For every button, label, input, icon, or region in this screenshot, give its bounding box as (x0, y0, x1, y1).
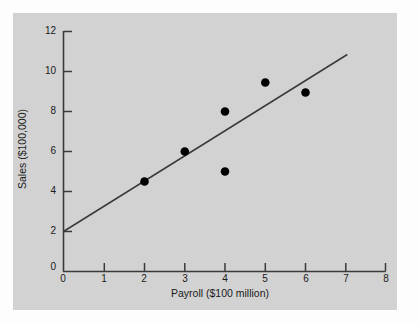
y-tick-label-8: 8 (34, 106, 56, 116)
data-point (261, 78, 270, 87)
y-tick-label-12: 12 (34, 26, 56, 36)
x-axis-ticks (104, 263, 385, 272)
x-tick-label-8: 8 (378, 274, 394, 284)
data-point (181, 147, 190, 156)
x-tick-label-7: 7 (338, 274, 354, 284)
y-tick-label-6: 6 (34, 146, 56, 156)
y-tick-label-10: 10 (34, 66, 56, 76)
x-axis-title: Payroll ($100 million) (120, 287, 320, 299)
y-tick-label-4: 4 (34, 186, 56, 196)
data-point (221, 167, 230, 176)
data-point (301, 88, 310, 97)
x-tick-label-0: 0 (55, 274, 71, 284)
data-point (140, 177, 149, 186)
regression-line (64, 55, 348, 232)
x-tick-label-6: 6 (298, 274, 314, 284)
x-tick-label-1: 1 (96, 274, 112, 284)
x-tick-label-2: 2 (136, 274, 152, 284)
y-tick-label-2: 2 (34, 226, 56, 236)
y-axis-title: Sales ($100,000) (16, 69, 28, 229)
data-point (221, 107, 230, 116)
y-tick-label-0: 0 (34, 262, 56, 272)
x-tick-label-3: 3 (177, 274, 193, 284)
y-axis-ticks (64, 32, 73, 232)
x-tick-label-5: 5 (257, 274, 273, 284)
x-tick-label-4: 4 (217, 274, 233, 284)
chart-figure: 12 10 8 6 4 2 0 0 1 2 3 4 5 6 7 8 Payrol… (0, 0, 419, 324)
